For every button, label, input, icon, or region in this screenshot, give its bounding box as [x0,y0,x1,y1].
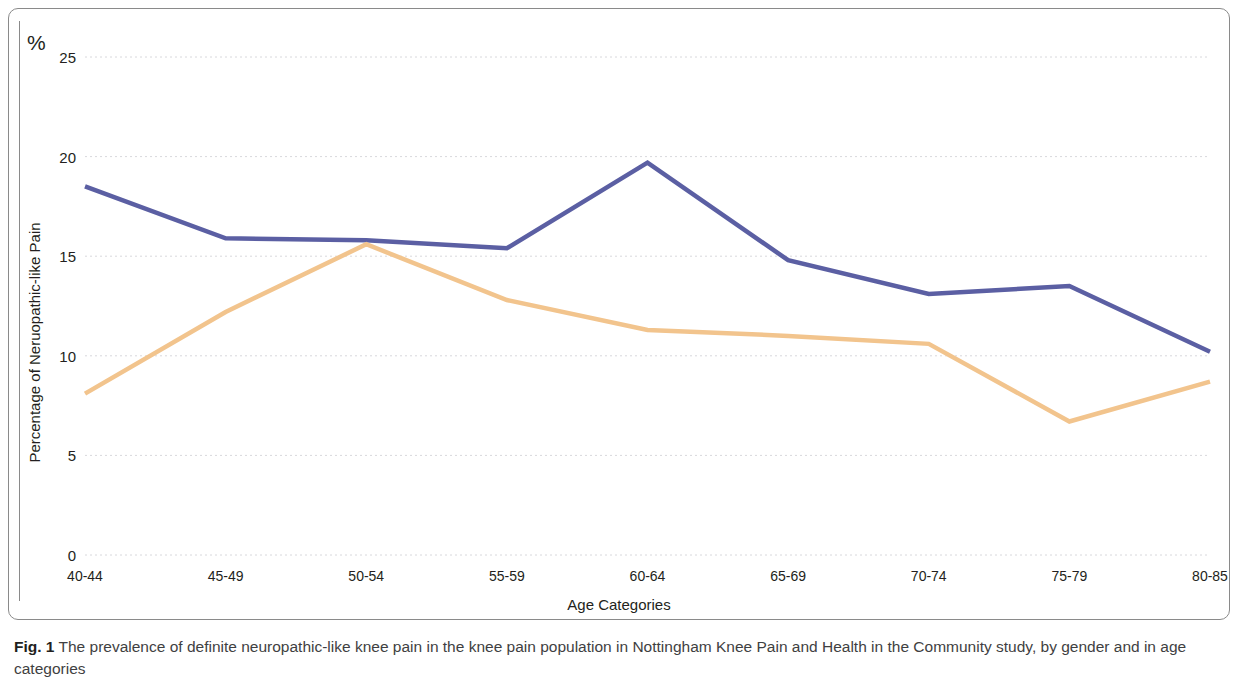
y-tick-label: 5 [36,447,76,464]
y-tick-label: 0 [36,547,76,564]
data-series-group [85,163,1210,422]
y-tick-label: 10 [36,347,76,364]
x-tick-label: 65-69 [728,568,848,584]
gridlines [85,57,1210,555]
y-tick-label: 15 [36,248,76,265]
x-tick-label: 40-44 [25,568,145,584]
x-tick-label: 75-79 [1009,568,1129,584]
x-tick-label: 60-64 [588,568,708,584]
x-tick-label: 80-85 [1150,568,1238,584]
y-axis-tick-labels: 2520151050 [28,57,76,555]
x-axis-title: Age Categories [0,596,1238,613]
figure-caption: Fig. 1 The prevalence of definite neurop… [14,636,1226,681]
x-tick-label: 70-74 [869,568,989,584]
series-series-orange [85,244,1210,421]
y-axis-spine [19,21,20,601]
line-chart-svg [85,57,1210,555]
x-tick-label: 55-59 [447,568,567,584]
figure-caption-text: The prevalence of definite neuropathic-l… [14,638,1186,677]
plot-area [85,57,1210,555]
series-series-blue [85,163,1210,352]
y-tick-label: 25 [36,49,76,66]
y-tick-label: 20 [36,148,76,165]
x-tick-label: 45-49 [166,568,286,584]
figure-number: Fig. 1 [14,638,54,655]
figure-container: % Percentage of Neruopathic-like Pain 25… [0,0,1238,693]
x-tick-label: 50-54 [306,568,426,584]
x-axis-tick-labels: 40-4445-4950-5455-5960-6465-6970-7475-79… [85,568,1210,590]
